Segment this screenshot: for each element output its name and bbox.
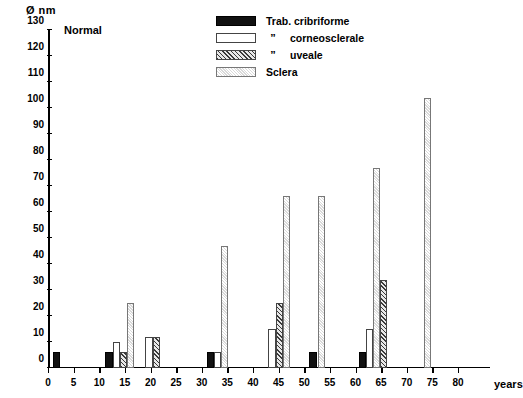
x-tick — [151, 368, 152, 373]
x-tick-label: 70 — [401, 378, 412, 388]
x-tick — [74, 368, 75, 373]
bar — [366, 329, 373, 368]
legend-item-trab-cribriforme: Trab. cribriforme — [216, 14, 364, 28]
y-tick-label: 0 — [38, 354, 44, 364]
y-tick — [47, 55, 52, 56]
y-tick-label: 120 — [27, 42, 44, 52]
bar — [283, 196, 290, 368]
y-tick-label: 90 — [33, 120, 44, 130]
y-tick-label: 20 — [33, 302, 44, 312]
y-tick — [47, 159, 52, 160]
x-tick — [458, 368, 459, 373]
bar — [309, 352, 316, 368]
bar — [373, 168, 380, 368]
y-tick — [47, 263, 52, 264]
x-tick — [48, 368, 49, 373]
y-tick — [47, 315, 52, 316]
x-tick-label: 80 — [452, 378, 463, 388]
x-tick — [407, 368, 408, 373]
x-tick-label: 5 — [71, 378, 77, 388]
bar — [221, 246, 228, 368]
y-tick-label: 130 — [27, 16, 44, 26]
bar — [359, 352, 366, 368]
bar — [113, 342, 120, 368]
y-tick-label: 70 — [33, 172, 44, 182]
x-tick-label: 40 — [247, 378, 258, 388]
y-tick — [47, 211, 52, 212]
x-tick-label: 50 — [299, 378, 310, 388]
y-tick — [47, 29, 52, 30]
bar — [207, 352, 214, 368]
bar — [276, 303, 283, 368]
bar — [424, 98, 431, 368]
x-tick — [356, 368, 357, 373]
y-tick-label: 100 — [27, 94, 44, 104]
y-tick — [47, 289, 52, 290]
x-tick — [125, 368, 126, 373]
y-tick-label: 50 — [33, 224, 44, 234]
y-tick-label: 80 — [33, 146, 44, 156]
bar — [214, 352, 221, 368]
y-tick-label: 60 — [33, 198, 44, 208]
x-tick-label: 30 — [196, 378, 207, 388]
y-tick — [47, 81, 52, 82]
plot-area: 0102030405060708090100110120130 05101520… — [48, 30, 490, 368]
x-tick — [330, 368, 331, 373]
y-tick — [47, 133, 52, 134]
x-tick — [304, 368, 305, 373]
x-tick-label: 0 — [45, 378, 51, 388]
bar — [120, 352, 127, 368]
x-tick-label: 25 — [171, 378, 182, 388]
x-tick — [432, 368, 433, 373]
y-tick — [47, 341, 52, 342]
x-tick-label: 20 — [145, 378, 156, 388]
bar — [145, 337, 152, 368]
x-tick-label: 55 — [324, 378, 335, 388]
x-tick — [279, 368, 280, 373]
x-tick — [176, 368, 177, 373]
y-tick-label: 30 — [33, 276, 44, 286]
bar — [268, 329, 275, 368]
x-tick — [381, 368, 382, 373]
bar — [53, 352, 60, 368]
x-tick — [227, 368, 228, 373]
x-tick-label: 45 — [273, 378, 284, 388]
y-tick-label: 10 — [33, 328, 44, 338]
legend-label-trab-cribriforme: Trab. cribriforme — [266, 15, 349, 27]
y-tick — [47, 185, 52, 186]
legend-swatch-trab-cribriforme — [216, 16, 256, 26]
bar — [105, 352, 112, 368]
bar — [380, 280, 387, 368]
x-tick-label: 65 — [376, 378, 387, 388]
y-tick-label: 40 — [33, 250, 44, 260]
y-tick — [47, 237, 52, 238]
bar — [153, 337, 160, 368]
x-tick-label: 75 — [427, 378, 438, 388]
bar — [127, 303, 134, 368]
y-tick — [47, 107, 52, 108]
x-axis-title: years — [494, 378, 523, 390]
x-tick — [99, 368, 100, 373]
y-tick-label: 110 — [28, 68, 44, 78]
x-tick-label: 15 — [119, 378, 130, 388]
x-tick — [253, 368, 254, 373]
x-tick-label: 10 — [94, 378, 105, 388]
x-tick-label: 35 — [222, 378, 233, 388]
bar — [318, 196, 325, 368]
x-tick — [202, 368, 203, 373]
x-tick-label: 60 — [350, 378, 361, 388]
